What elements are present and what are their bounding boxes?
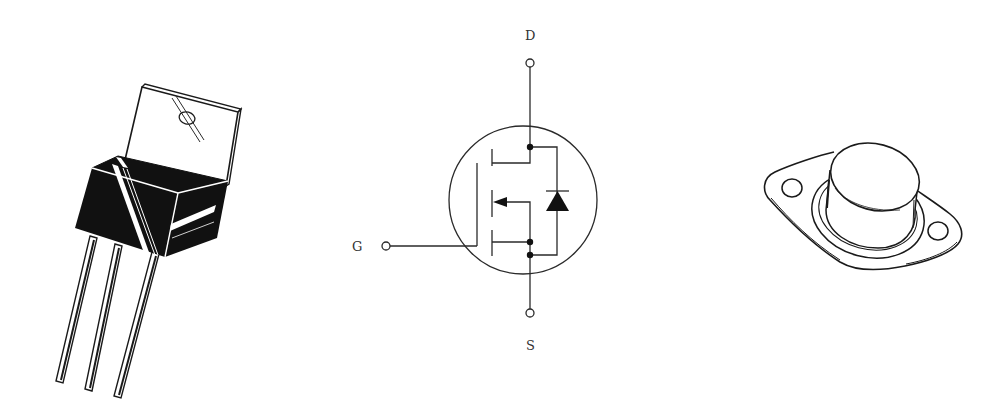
- gate-label: G: [352, 239, 362, 254]
- source-label: S: [526, 338, 535, 353]
- to220-leads: [56, 236, 159, 398]
- mounting-hole: [928, 222, 948, 240]
- body-diode: [546, 191, 569, 211]
- junction-dot: [527, 252, 533, 258]
- junction-dot: [527, 144, 533, 150]
- source-terminal: [526, 309, 534, 317]
- gate-terminal: [382, 242, 390, 250]
- figure-canvas: D G S: [0, 0, 1006, 416]
- to3-package: [765, 133, 962, 270]
- junction-dot: [527, 239, 533, 245]
- to220-package: [56, 84, 241, 398]
- mosfet-symbol: D G S: [352, 28, 597, 353]
- symbol-envelope: [449, 126, 597, 274]
- drain-label: D: [525, 28, 535, 43]
- channel-arrow: [493, 197, 507, 207]
- drain-terminal: [526, 59, 534, 67]
- mounting-hole: [782, 179, 802, 197]
